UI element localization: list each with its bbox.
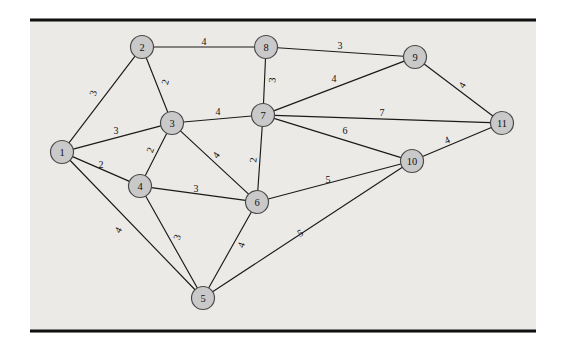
edge-weight-7-9: 4: [332, 73, 337, 84]
edge-weight-6-10: 5: [326, 174, 331, 185]
edge-weight-2-8: 4: [202, 36, 207, 47]
graph-node-10[interactable]: 10: [401, 150, 424, 173]
node-label-1: 1: [59, 147, 64, 158]
graph-canvas: 3324242443345253467344 1234567891011: [0, 0, 566, 351]
graph-node-8[interactable]: 8: [255, 36, 278, 59]
node-label-11: 11: [497, 118, 507, 129]
node-label-10: 10: [407, 156, 418, 167]
graph-node-9[interactable]: 9: [404, 46, 427, 69]
node-label-4: 4: [137, 181, 143, 192]
edge-weight-7-10: 6: [343, 125, 348, 136]
node-label-2: 2: [139, 42, 144, 53]
node-label-9: 9: [412, 52, 417, 63]
graph-node-5[interactable]: 5: [192, 287, 215, 310]
node-label-6: 6: [254, 197, 259, 208]
edge-weight-6-7: 2: [247, 157, 258, 163]
node-label-3: 3: [169, 118, 174, 129]
node-label-7: 7: [260, 110, 265, 121]
edge-weight-1-4: 2: [99, 159, 104, 170]
node-label-8: 8: [263, 42, 268, 53]
graph-node-1[interactable]: 1: [51, 141, 74, 164]
figure-plate: [30, 20, 536, 333]
edge-weight-7-11: 7: [380, 107, 385, 118]
graph-node-7[interactable]: 7: [252, 104, 275, 127]
edge-weight-8-9: 3: [338, 40, 343, 51]
edge-weight-7-8: 3: [266, 77, 277, 83]
graph-node-3[interactable]: 3: [161, 112, 184, 135]
graph-node-6[interactable]: 6: [246, 191, 269, 214]
edge-weight-1-3: 3: [114, 125, 119, 136]
node-label-5: 5: [200, 293, 205, 304]
graph-node-11[interactable]: 11: [491, 112, 514, 135]
graph-node-2[interactable]: 2: [131, 36, 154, 59]
graph-node-4[interactable]: 4: [129, 175, 152, 198]
graph-figure: 3324242443345253467344 1234567891011: [0, 0, 566, 351]
edge-weight-3-7: 4: [216, 106, 221, 117]
edge-weight-4-6: 3: [194, 183, 199, 194]
